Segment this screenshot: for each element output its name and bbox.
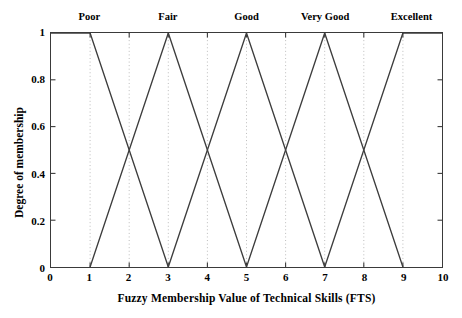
xtick-label: 7: [322, 272, 328, 283]
axis-ticks: [51, 33, 442, 267]
set-label-poor: Poor: [79, 12, 101, 23]
set-label-good: Good: [234, 12, 259, 23]
x-axis-title: Fuzzy Membership Value of Technical Skil…: [50, 292, 443, 304]
fuzzy-membership-chart: Poor Fair Good Very Good Excellent 0 0.2…: [0, 0, 462, 318]
curves: [51, 33, 442, 267]
gridlines: [90, 33, 403, 267]
set-label-very-good: Very Good: [301, 12, 349, 23]
ytick-label: 0: [40, 263, 46, 274]
set-label-excellent: Excellent: [391, 12, 432, 23]
ytick-label: 1: [40, 27, 46, 38]
ytick-label: 0.8: [31, 74, 45, 85]
ytick-label: 0.4: [31, 168, 45, 179]
xtick-label: 1: [87, 272, 93, 283]
xtick-label: 3: [165, 272, 171, 283]
y-axis-title: Degree of membership: [13, 107, 25, 218]
xtick-label: 6: [283, 272, 289, 283]
ytick-label: 0.2: [31, 215, 45, 226]
xtick-label: 5: [244, 272, 250, 283]
xtick-label: 4: [204, 272, 210, 283]
set-label-fair: Fair: [158, 12, 177, 23]
xtick-label: 0: [47, 272, 53, 283]
plot-area: [50, 32, 443, 268]
membership-curves: [51, 33, 442, 267]
ytick-label: 0.6: [31, 121, 45, 132]
xtick-label: 2: [126, 272, 132, 283]
xtick-label: 9: [401, 272, 407, 283]
xtick-label: 8: [362, 272, 368, 283]
xtick-label: 10: [438, 272, 449, 283]
